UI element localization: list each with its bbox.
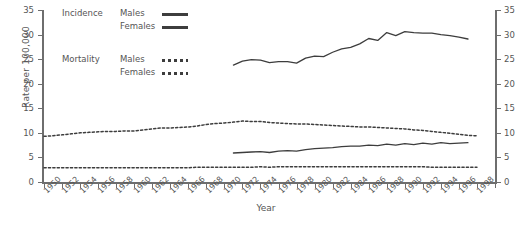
legend-group-mortality: Mortality xyxy=(62,54,116,64)
legend-swatch-incidence-females xyxy=(162,26,188,29)
legend-label-mortality-females: Females xyxy=(120,67,160,77)
plot-area xyxy=(0,0,532,225)
legend-swatch-mortality-females xyxy=(162,72,188,75)
chart-container: Rate per 100,000 Year 005510101515202025… xyxy=(0,0,532,225)
legend-label-incidence-males: Males xyxy=(120,8,160,18)
legend-label-mortality-males: Males xyxy=(120,54,160,64)
legend-swatch-incidence-males xyxy=(162,13,188,16)
legend-swatch-mortality-males xyxy=(162,59,188,62)
series-line xyxy=(233,143,468,153)
series-line xyxy=(44,121,477,136)
legend-group-incidence: Incidence xyxy=(62,8,116,18)
series-line xyxy=(233,32,468,65)
legend-label-incidence-females: Females xyxy=(120,21,160,31)
series-line xyxy=(44,167,477,168)
